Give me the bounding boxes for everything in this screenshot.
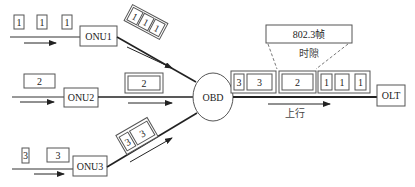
onu2-branch-frame: 2 (125, 73, 163, 93)
packet-label: 3 (23, 150, 28, 161)
slot-label: 时隙 (299, 47, 319, 59)
packet-label: 1 (358, 77, 363, 88)
onu2-label: ONU2 (68, 92, 95, 103)
trunk-link: 上行 3 3 2 1 1 1 (231, 71, 377, 119)
onu2-branch: 2 ONU2 2 (12, 73, 193, 107)
packet-label: 2 (295, 77, 300, 88)
onu3-branch-frame: 3 3 (116, 117, 158, 154)
onu1-label: ONU1 (85, 31, 112, 42)
onu3-input-packets: 3 3 (22, 148, 69, 163)
onu2-input-packets: 2 (24, 74, 55, 88)
onu3-label: ONU3 (77, 161, 104, 172)
packet-label: 1 (324, 77, 329, 88)
upstream-label: 上行 (285, 107, 305, 119)
frame-label: 802.3帧 (293, 28, 326, 40)
packet-label: 2 (142, 78, 147, 89)
onu1-branch-frame: 1 1 1 (124, 5, 168, 40)
packet-label: 1 (17, 17, 22, 28)
packet-label: 2 (37, 76, 42, 87)
obd-node: OBD (193, 73, 233, 121)
packet-label: 1 (40, 17, 45, 28)
packet-label: 1 (65, 17, 70, 28)
olt-label: OLT (382, 90, 401, 101)
onu1-branch: 1 1 1 ONU1 1 1 1 (10, 5, 196, 82)
frame-callout: 802.3帧 时隙 (266, 25, 352, 69)
onu3-node: ONU3 (73, 156, 107, 176)
packet-label: 3 (56, 150, 61, 161)
packet-label: 3 (257, 77, 262, 88)
obd-label: OBD (202, 92, 223, 103)
onu1-input-packets: 1 1 1 (14, 15, 72, 29)
packet-label: 1 (340, 77, 345, 88)
packet-label: 3 (237, 77, 242, 88)
onu3-branch: 3 3 ONU3 3 3 (12, 113, 197, 176)
onu1-node: ONU1 (80, 26, 117, 46)
arrow-icon (127, 47, 172, 68)
trunk-frame: 3 3 2 1 1 1 (231, 71, 370, 93)
epon-upstream-diagram: 1 1 1 ONU1 1 1 1 2 (0, 0, 415, 187)
olt-node: OLT (377, 85, 405, 106)
onu2-node: ONU2 (64, 88, 98, 107)
